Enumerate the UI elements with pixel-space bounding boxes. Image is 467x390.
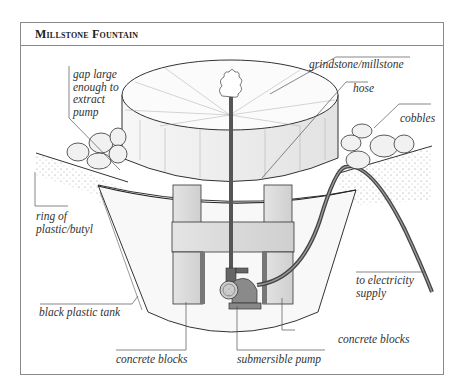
label-blocks-left: concrete blocks <box>116 353 187 366</box>
cobbles-left <box>67 128 127 169</box>
label-blocks-right: concrete blocks <box>338 333 409 346</box>
label-tank: black plastic tank <box>39 306 120 319</box>
label-electricity: to electricity supply <box>356 274 414 299</box>
label-grindstone: grindstone/millstone <box>309 58 404 71</box>
label-cobbles: cobbles <box>400 112 435 125</box>
label-hose: hose <box>353 82 374 95</box>
hose-riser <box>229 97 233 272</box>
label-gap: gap large enough to extract pump <box>73 68 119 118</box>
label-ring: ring of plastic/butyl <box>36 210 93 235</box>
plastic-tank <box>98 185 356 332</box>
label-pump: submersible pump <box>237 353 321 366</box>
